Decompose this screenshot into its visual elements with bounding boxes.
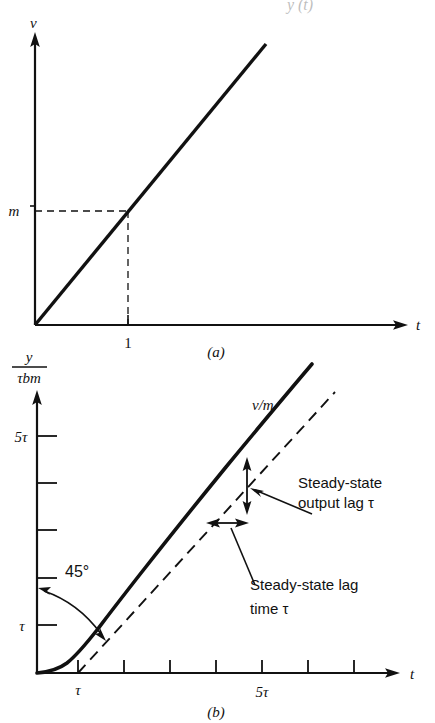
panel-b-x-axis: [37, 668, 400, 678]
panel-b-caption: (b): [207, 704, 225, 721]
top-cropped-text: y (t): [285, 0, 313, 14]
panel-b-response-curve: [37, 364, 312, 673]
panel-b-output-lag-label-line1: Steady-state: [298, 474, 382, 491]
panel-a-y-axis: [30, 32, 40, 325]
panel-a-x-axis-label: t: [416, 317, 421, 333]
panel-a-caption: (a): [207, 344, 225, 361]
panel-b-y-tick-label-5tau: 5τ: [15, 429, 29, 445]
panel-b-asymptote-line: [78, 392, 335, 673]
panel-b-y-axis-label: y τbm: [12, 349, 47, 386]
panel-a-x-tick-label: 1: [124, 335, 132, 351]
panel-b-y-ticks: [37, 436, 57, 625]
panel-a-y-axis-label: v: [30, 15, 37, 31]
panel-b-lag-time-label-line2: time τ: [250, 600, 289, 617]
panel-b-y-axis: [32, 390, 42, 673]
panel-b-lag-time-label-line1: Steady-state lag: [250, 576, 358, 593]
panel-b-x-tick-label-tau: τ: [75, 682, 81, 698]
figure-svg: y (t) v t m: [0, 0, 435, 723]
panel-b-x-axis-label: t: [410, 666, 415, 682]
panel-b-y-axis-label-denominator: τbm: [17, 370, 41, 386]
panel-b-angle-arrowhead-left: [38, 587, 51, 595]
panel-b-x-tick-label-5tau: 5τ: [256, 684, 270, 700]
panel-b: y τbm t 5τ τ: [12, 349, 415, 721]
panel-a-y-tick-label: m: [9, 203, 20, 219]
panel-a: v t m 1 (a): [9, 15, 421, 361]
panel-a-x-axis: [35, 320, 408, 330]
panel-b-angle-label: 45°: [65, 563, 89, 580]
panel-b-y-axis-label-numerator: y: [24, 349, 33, 365]
panel-b-x-ticks: [78, 660, 354, 673]
figure-container: y (t) v t m: [0, 0, 435, 723]
panel-b-y-tick-label-tau: τ: [19, 618, 25, 634]
top-cropped-text-label: y (t): [285, 0, 313, 14]
panel-a-ramp-line: [35, 44, 266, 325]
panel-b-output-lag-label-line2: output lag τ: [298, 494, 374, 511]
panel-b-angle-arc: [44, 591, 101, 634]
